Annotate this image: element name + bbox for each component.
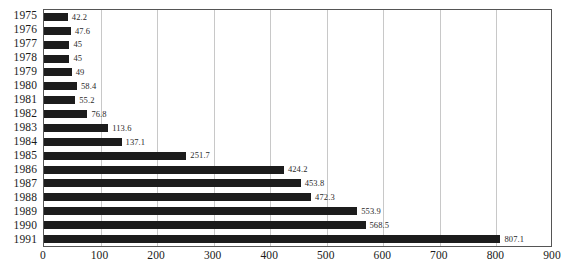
bar-series: 42.247.645454958.455.276.8113.6137.1251.… <box>44 10 551 246</box>
value-tick-label: 300 <box>204 250 222 262</box>
bar-row: 807.1 <box>44 232 551 246</box>
bar-value-label: 553.9 <box>361 207 381 216</box>
bar <box>44 27 71 35</box>
bar-row: 55.2 <box>44 93 551 107</box>
value-tick-label: 900 <box>543 250 561 262</box>
plot-area: 42.247.645454958.455.276.8113.6137.1251.… <box>43 9 552 247</box>
bar-row: 472.3 <box>44 190 551 204</box>
bar <box>44 82 77 90</box>
category-tick-label: 1989 <box>0 205 40 219</box>
value-tick-label: 100 <box>91 250 109 262</box>
bar-value-label: 113.6 <box>112 124 131 133</box>
bar-row: 251.7 <box>44 149 551 163</box>
value-tick-label: 200 <box>147 250 165 262</box>
category-tick-label: 1990 <box>0 219 40 233</box>
bar <box>44 55 69 63</box>
bar-row: 45 <box>44 38 551 52</box>
bar-value-label: 58.4 <box>81 82 96 91</box>
bar-row: 553.9 <box>44 204 551 218</box>
bar-value-label: 568.5 <box>370 221 390 230</box>
bar <box>44 96 75 104</box>
bar <box>44 13 68 21</box>
bar <box>44 124 108 132</box>
category-tick-label: 1983 <box>0 121 40 135</box>
value-tick-label: 700 <box>430 250 448 262</box>
bar-value-label: 453.8 <box>305 179 325 188</box>
category-tick-label: 1986 <box>0 163 40 177</box>
bar-row: 76.8 <box>44 107 551 121</box>
value-axis: 0100200300400500600700800900 <box>43 250 552 270</box>
bar-row: 47.6 <box>44 24 551 38</box>
category-tick-label: 1977 <box>0 37 40 51</box>
bar <box>44 207 357 215</box>
category-tick-label: 1980 <box>0 79 40 93</box>
bar-value-label: 45 <box>73 54 82 63</box>
category-tick-label: 1991 <box>0 233 40 247</box>
bar <box>44 68 72 76</box>
bar-chart: 1975197619771978197919801981198219831984… <box>0 0 563 277</box>
category-tick-label: 1978 <box>0 51 40 65</box>
category-tick-label: 1987 <box>0 177 40 191</box>
bar-row: 453.8 <box>44 177 551 191</box>
category-axis: 1975197619771978197919801981198219831984… <box>0 9 40 247</box>
category-tick-label: 1979 <box>0 65 40 79</box>
category-tick-label: 1981 <box>0 93 40 107</box>
bar-value-label: 472.3 <box>315 193 335 202</box>
category-tick-label: 1982 <box>0 107 40 121</box>
value-tick-label: 500 <box>317 250 335 262</box>
bar <box>44 235 500 243</box>
bar <box>44 221 366 229</box>
value-tick-label: 600 <box>374 250 392 262</box>
bar <box>44 41 69 49</box>
bar-row: 58.4 <box>44 79 551 93</box>
bar <box>44 166 284 174</box>
category-tick-label: 1976 <box>0 23 40 37</box>
value-tick-label: 400 <box>260 250 278 262</box>
bar-value-label: 424.2 <box>288 165 308 174</box>
value-tick-label: 800 <box>487 250 505 262</box>
bar-value-label: 251.7 <box>190 151 210 160</box>
bar-value-label: 49 <box>76 68 85 77</box>
bar-value-label: 45 <box>73 40 82 49</box>
category-tick-label: 1988 <box>0 191 40 205</box>
bar-value-label: 137.1 <box>126 138 146 147</box>
bar-row: 137.1 <box>44 135 551 149</box>
bar-row: 45 <box>44 52 551 66</box>
bar-row: 568.5 <box>44 218 551 232</box>
bar <box>44 179 301 187</box>
category-tick-label: 1984 <box>0 135 40 149</box>
bar <box>44 138 122 146</box>
bar <box>44 152 186 160</box>
bar-row: 424.2 <box>44 163 551 177</box>
bar-row: 42.2 <box>44 10 551 24</box>
bar-value-label: 55.2 <box>79 96 94 105</box>
value-tick-label: 0 <box>40 250 46 262</box>
bar-value-label: 807.1 <box>504 235 524 244</box>
bar <box>44 193 311 201</box>
bar-value-label: 42.2 <box>72 13 87 22</box>
bar <box>44 110 87 118</box>
category-tick-label: 1985 <box>0 149 40 163</box>
bar-value-label: 76.8 <box>91 110 106 119</box>
bar-row: 113.6 <box>44 121 551 135</box>
bar-row: 49 <box>44 66 551 80</box>
bar-value-label: 47.6 <box>75 27 90 36</box>
category-tick-label: 1975 <box>0 9 40 23</box>
